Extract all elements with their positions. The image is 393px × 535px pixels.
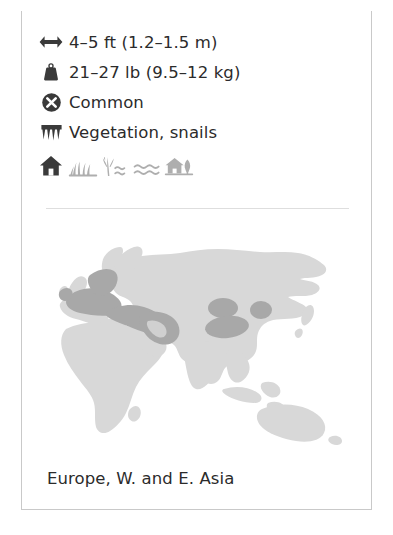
fact-row-status: Common: [22, 87, 371, 117]
weight-icon: [35, 59, 67, 85]
length-arrows-icon: [35, 29, 67, 55]
habitat-icons-row: [22, 147, 371, 179]
fact-row-diet: Vegetation, snails: [22, 117, 371, 147]
reeds-water-icon: [99, 149, 131, 177]
fact-row-weight: 21–27 lb (9.5–12 kg): [22, 57, 371, 87]
status-circle-x-icon: [35, 89, 67, 115]
section-divider: [46, 208, 349, 209]
fact-diet-value: Vegetation, snails: [67, 123, 217, 142]
village-tree-icon: [163, 149, 195, 177]
species-fact-card: 4–5 ft (1.2–1.5 m) 21–27 lb (9.5–12 kg) …: [21, 11, 372, 510]
open-water-waves-icon: [131, 149, 163, 177]
marsh-grass-icon: [67, 149, 99, 177]
facts-list: 4–5 ft (1.2–1.5 m) 21–27 lb (9.5–12 kg) …: [22, 27, 371, 179]
fact-length-value: 4–5 ft (1.2–1.5 m): [67, 33, 217, 52]
fact-status-value: Common: [67, 93, 144, 112]
house-icon: [35, 149, 67, 177]
range-map-eurasia: [22, 223, 371, 448]
fact-weight-value: 21–27 lb (9.5–12 kg): [67, 63, 240, 82]
fact-row-length: 4–5 ft (1.2–1.5 m): [22, 27, 371, 57]
teeth-icon: [35, 119, 67, 145]
map-caption: Europe, W. and E. Asia: [47, 469, 234, 488]
